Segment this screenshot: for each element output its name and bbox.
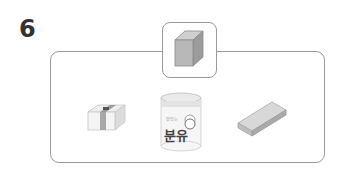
option-formula-can[interactable]: 맛있는 분유 [158,92,204,156]
eraser-icon [235,99,289,141]
question-number: 6 [19,17,36,41]
svg-text:분유: 분유 [164,128,188,143]
svg-text:맛있는: 맛있는 [166,116,178,122]
option-bundle[interactable] [85,100,129,138]
reference-box [162,22,217,78]
formula-can-icon: 맛있는 분유 [158,92,204,152]
bundle-icon [85,100,129,134]
option-eraser[interactable] [235,99,289,145]
cube-icon [163,23,215,76]
